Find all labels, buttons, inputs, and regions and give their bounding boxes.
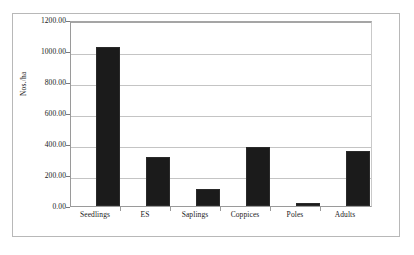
bar-seedlings[interactable]	[96, 47, 120, 206]
x-tick-label-saplings: Saplings	[170, 210, 220, 219]
y-tick-label-800: 800.00	[45, 79, 66, 87]
y-tick-label-0: 0.00	[52, 203, 66, 211]
x-tick-label-adults: Adults	[320, 210, 370, 219]
x-tick-label-es: ES	[120, 210, 170, 219]
y-tick-label-600: 600.00	[45, 110, 66, 118]
y-tick-label-1200: 1200.00	[41, 17, 66, 25]
chart-figure: Nos./ha 1200.00 1000.00 800.00 600.00 40…	[0, 0, 414, 255]
y-tick-label-1000: 1000.00	[41, 48, 66, 56]
y-tick-mark-0	[66, 207, 70, 208]
x-tick-label-seedlings: Seedlings	[70, 210, 120, 219]
x-tick-label-coppices: Coppices	[220, 210, 270, 219]
y-axis-tick-labels: 1200.00 1000.00 800.00 600.00 400.00 200…	[28, 0, 66, 255]
bar-poles[interactable]	[296, 203, 320, 206]
bar-saplings[interactable]	[196, 189, 220, 206]
plot-area	[70, 21, 372, 207]
y-axis-title: Nos./ha	[19, 71, 28, 96]
bar-coppices[interactable]	[246, 147, 270, 206]
bar-es[interactable]	[146, 157, 170, 206]
bar-adults[interactable]	[346, 151, 370, 207]
x-tick-label-poles: Poles	[270, 210, 320, 219]
y-tick-label-200: 200.00	[45, 172, 66, 180]
y-tick-label-400: 400.00	[45, 141, 66, 149]
